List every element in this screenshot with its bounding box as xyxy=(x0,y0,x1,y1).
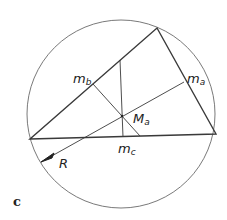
label-radius: R xyxy=(59,156,68,171)
circumcenter-point xyxy=(121,115,124,118)
radius-arrow-icon xyxy=(41,153,54,162)
label-m-b: mb xyxy=(73,71,92,87)
circumcircle xyxy=(27,20,215,208)
label-m-c: mc xyxy=(118,141,136,157)
perpendicular-bisector-b xyxy=(93,84,140,136)
radius-line xyxy=(41,82,184,162)
panel-label: c xyxy=(13,194,21,209)
label-circumcenter: Ma xyxy=(133,111,150,127)
circumcircle-diagram: mb ma mc Ma R c xyxy=(0,0,227,220)
perpendicular-bisector-c xyxy=(120,60,123,137)
label-m-a: ma xyxy=(187,71,205,87)
